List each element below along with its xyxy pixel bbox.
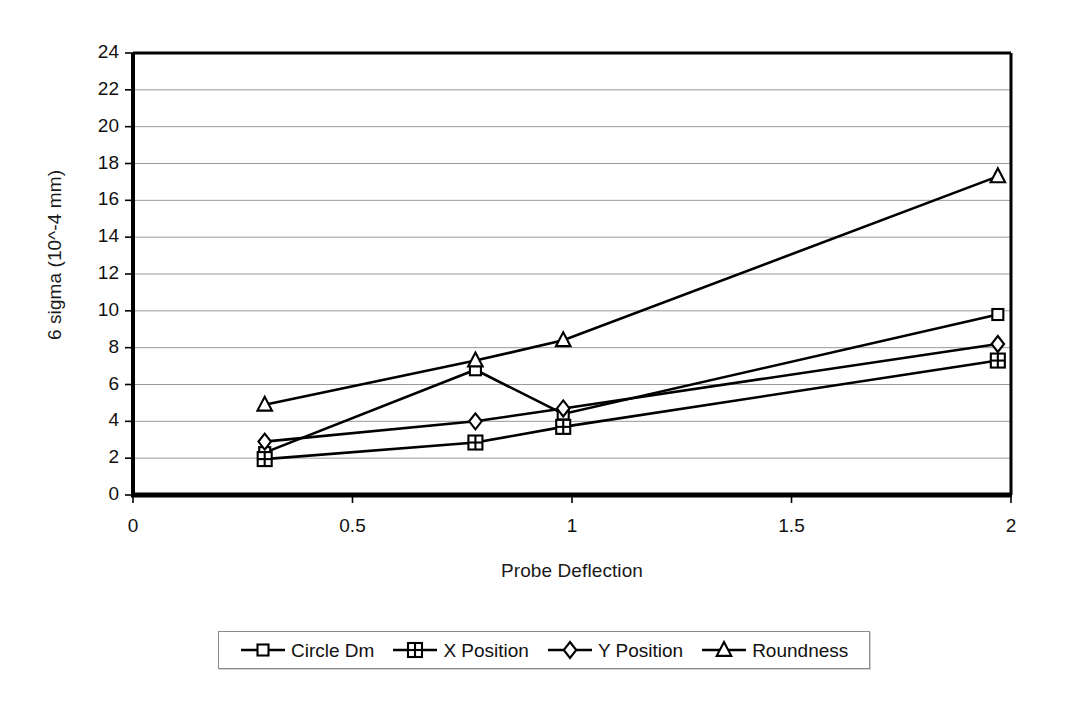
data-point-marker-crossed-square xyxy=(258,452,272,466)
data-point-marker-diamond xyxy=(469,413,481,429)
y-axis-tick-label: 8 xyxy=(73,336,119,358)
chart-series xyxy=(258,336,1004,450)
chart-plot-area xyxy=(0,0,1075,706)
y-axis-tick-label: 12 xyxy=(73,262,119,284)
x-axis-tick-label: 1.5 xyxy=(762,515,822,537)
legend-entry: X Position xyxy=(392,640,529,660)
data-point-marker-square xyxy=(992,309,1003,320)
chart-legend: Circle DmX PositionY PositionRoundness xyxy=(218,631,870,669)
data-point-marker-diamond xyxy=(564,642,576,658)
legend-marker-triangle-icon xyxy=(701,640,747,660)
legend-label: X Position xyxy=(443,641,529,660)
legend-entry: Circle Dm xyxy=(240,640,374,660)
y-axis-tick-label: 2 xyxy=(73,446,119,468)
legend-label: Y Position xyxy=(598,641,683,660)
y-axis-tick-label: 14 xyxy=(73,225,119,247)
data-point-marker-crossed-square xyxy=(408,643,422,657)
y-axis-title: 6 sigma (10^-4 mm) xyxy=(44,20,74,490)
data-point-marker-square xyxy=(258,645,269,656)
legend-marker-square-icon xyxy=(240,640,286,660)
data-point-marker-crossed-square xyxy=(556,420,570,434)
chart-series xyxy=(257,168,1005,410)
axis-ticks xyxy=(125,53,1011,503)
y-axis-tick-label: 24 xyxy=(73,41,119,63)
x-axis-tick-label: 1 xyxy=(542,515,602,537)
legend-marker-crossed-square-icon xyxy=(392,640,438,660)
x-axis-tick-label: 0.5 xyxy=(323,515,383,537)
x-axis-tick-label: 0 xyxy=(103,515,163,537)
y-axis-tick-label: 16 xyxy=(73,188,119,210)
y-axis-tick-label: 0 xyxy=(73,483,119,505)
series-line xyxy=(265,344,998,442)
y-axis-tick-label: 10 xyxy=(73,299,119,321)
y-axis-tick-label: 22 xyxy=(73,78,119,100)
chart-series xyxy=(258,354,1005,467)
legend-label: Circle Dm xyxy=(291,641,374,660)
chart-container: 6 sigma (10^-4 mm) Probe Deflection 0246… xyxy=(0,0,1075,706)
y-axis-tick-label: 20 xyxy=(73,115,119,137)
series-line xyxy=(265,176,998,404)
legend-entry: Roundness xyxy=(701,640,848,660)
legend-entry: Y Position xyxy=(547,640,683,660)
x-axis-tick-label: 2 xyxy=(981,515,1041,537)
legend-marker-diamond-icon xyxy=(547,640,593,660)
data-point-marker-triangle xyxy=(991,168,1006,182)
data-point-marker-diamond xyxy=(992,336,1004,352)
y-axis-tick-label: 4 xyxy=(73,409,119,431)
y-axis-tick-label: 6 xyxy=(73,373,119,395)
data-point-marker-crossed-square xyxy=(991,354,1005,368)
legend-label: Roundness xyxy=(752,641,848,660)
y-axis-tick-label: 18 xyxy=(73,152,119,174)
data-point-marker-crossed-square xyxy=(468,436,482,450)
x-axis-title: Probe Deflection xyxy=(133,560,1011,582)
